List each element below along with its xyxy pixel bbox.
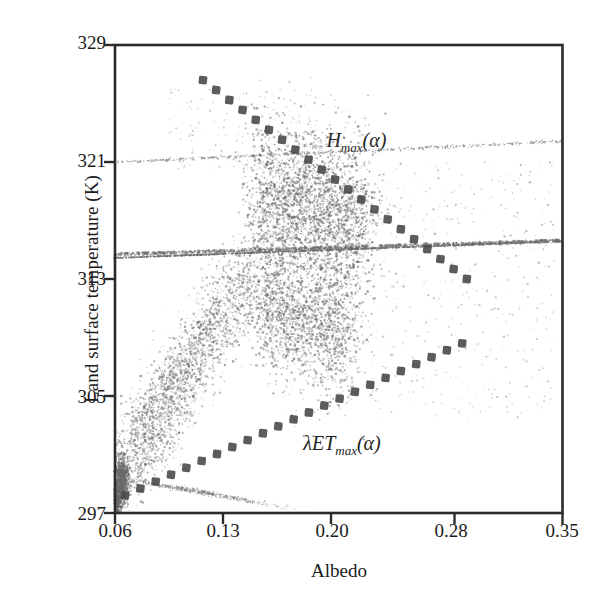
scatter-plot-figure: Land surface temperature (K) Albedo 329 … xyxy=(0,0,603,608)
plot-canvas xyxy=(0,0,603,608)
scatter-points-layer xyxy=(113,77,563,514)
limit-edges-layer xyxy=(120,75,471,500)
